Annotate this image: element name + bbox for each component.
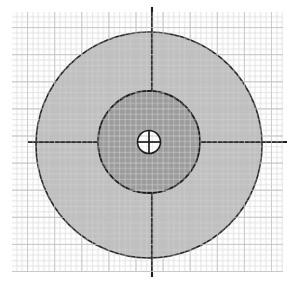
figure-canvas (0, 0, 294, 283)
concentric-circles-diagram (0, 0, 294, 283)
